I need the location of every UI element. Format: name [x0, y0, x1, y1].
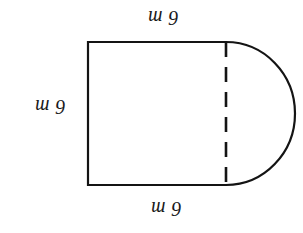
dimension-label-bottom: 6 m — [139, 199, 193, 219]
dimension-label-left: 6 m — [22, 97, 78, 117]
dimension-label-top: 6 m — [136, 8, 190, 28]
geometry-figure: 6 m 6 m 6 m — [0, 0, 303, 233]
shape-outline — [88, 42, 295, 185]
